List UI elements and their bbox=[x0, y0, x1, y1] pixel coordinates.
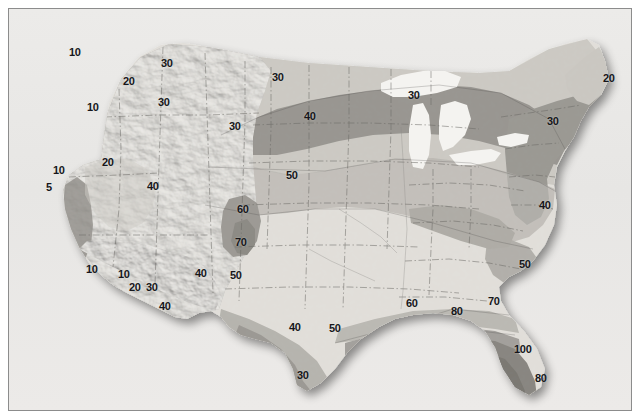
contour-label: 70 bbox=[235, 237, 247, 248]
contour-label: 50 bbox=[286, 170, 298, 181]
contour-label: 40 bbox=[304, 111, 316, 122]
contour-label: 40 bbox=[147, 181, 159, 192]
contour-label: 20 bbox=[102, 157, 114, 168]
contour-label: 20 bbox=[123, 76, 135, 87]
contour-label: 70 bbox=[488, 296, 500, 307]
contour-label: 10 bbox=[87, 102, 99, 113]
contour-label: 30 bbox=[158, 97, 170, 108]
contour-label: 50 bbox=[230, 270, 242, 281]
contour-label: 40 bbox=[159, 301, 171, 312]
contour-label: 30 bbox=[272, 72, 284, 83]
contour-label: 30 bbox=[297, 370, 309, 381]
contour-label: 30 bbox=[408, 90, 420, 101]
contour-label: 60 bbox=[406, 298, 418, 309]
contour-label: 40 bbox=[539, 200, 551, 211]
contour-label: 20 bbox=[129, 282, 141, 293]
figure-container: 1030201030302040303030102040505604070501… bbox=[0, 0, 640, 419]
contour-label: 10 bbox=[86, 264, 98, 275]
map-frame: 1030201030302040303030102040505604070501… bbox=[8, 8, 632, 411]
contour-label: 30 bbox=[229, 121, 241, 132]
contour-label: 50 bbox=[329, 323, 341, 334]
contour-label: 30 bbox=[161, 58, 173, 69]
contour-label: 100 bbox=[514, 344, 531, 355]
contour-label: 30 bbox=[146, 282, 158, 293]
contour-label: 60 bbox=[237, 204, 249, 215]
contour-label: 50 bbox=[519, 259, 531, 270]
contour-label: 20 bbox=[603, 73, 615, 84]
contour-label: 10 bbox=[53, 165, 65, 176]
contour-label: 40 bbox=[289, 322, 301, 333]
contour-label: 80 bbox=[535, 373, 547, 384]
contour-label: 10 bbox=[69, 47, 81, 58]
contour-label: 10 bbox=[118, 269, 130, 280]
contour-label: 40 bbox=[195, 268, 207, 279]
contour-label: 80 bbox=[451, 306, 463, 317]
contour-map: 1030201030302040303030102040505604070501… bbox=[9, 9, 632, 411]
contour-label: 30 bbox=[547, 116, 559, 127]
contour-label: 5 bbox=[46, 182, 52, 193]
